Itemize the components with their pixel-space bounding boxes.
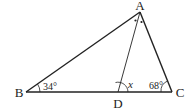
vertex-label-a: A — [135, 0, 145, 13]
angle-label-c: 68° — [149, 80, 163, 91]
angle-mark-dot-left — [134, 19, 136, 21]
vertex-label-b: B — [15, 85, 24, 100]
angle-label-x: x — [127, 78, 133, 90]
angle-arc-b — [38, 84, 41, 92]
triangle-diagram: A B C D 34° 68° x — [0, 0, 192, 111]
angle-arc-d — [116, 82, 129, 92]
vertex-label-c: C — [176, 85, 185, 100]
angle-label-b: 34° — [43, 81, 57, 92]
segment-ab — [26, 12, 140, 92]
angle-mark-dot-right — [140, 21, 142, 23]
vertex-label-d: D — [113, 96, 122, 111]
